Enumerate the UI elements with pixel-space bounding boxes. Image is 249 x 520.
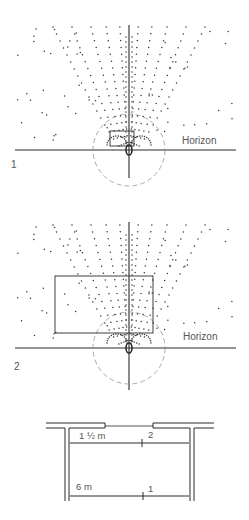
viewpoint-marker-2: 2	[148, 429, 153, 440]
distance-label-near: 1 ½ m	[79, 430, 105, 441]
view-dots	[17, 224, 233, 345]
picture-frame	[55, 276, 153, 333]
viewpoint-marker-1: 1	[148, 483, 153, 494]
perspective-diagram: Horizon 1 Horizon 2 1 ½ m 2 6 m 1	[0, 0, 249, 520]
horizon-label-1: Horizon	[182, 135, 216, 146]
view-dots	[17, 26, 233, 147]
distance-label-far: 6 m	[76, 481, 92, 492]
figure-1-field-of-view	[15, 25, 236, 186]
room-plan	[46, 423, 214, 501]
figure-number-2: 2	[14, 361, 20, 372]
figure-number-1: 1	[11, 159, 17, 170]
figure-2-field-of-view	[15, 222, 236, 390]
horizon-label-2: Horizon	[183, 331, 217, 342]
